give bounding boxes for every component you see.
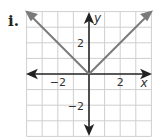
y-axis-label: y (93, 11, 102, 25)
x-tick-neg2: −2 (50, 76, 66, 89)
y-tick-2: 2 (77, 37, 84, 50)
x-axis-label: x (139, 76, 148, 90)
coordinate-plane: −2 2 2 −2 y x (0, 0, 161, 140)
y-tick-neg2: −2 (68, 100, 84, 113)
x-tick-2: 2 (117, 76, 124, 89)
